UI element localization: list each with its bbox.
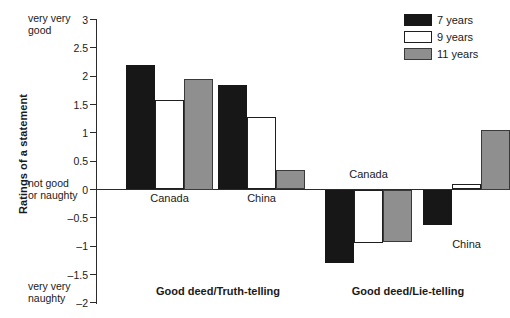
y-tick-label: 0.5: [42, 155, 88, 167]
y-tick-label: –0.5: [42, 212, 88, 224]
y-tick-label: 1: [42, 127, 88, 139]
y-tick: [90, 161, 96, 162]
y-tick-label-text: 0.5: [48, 155, 88, 167]
y-tick: [90, 246, 96, 247]
legend-item-11-years: 11 years: [404, 46, 478, 61]
bar-9-years-canada-0: [155, 100, 184, 190]
legend-swatch-icon-black: [404, 14, 432, 26]
bar-11-years-china-1: [276, 170, 305, 190]
y-tick: [90, 274, 96, 275]
y-tick-label-text: 1: [48, 127, 88, 139]
y-tick: [90, 19, 96, 20]
y-axis-annotation: not good or naughty: [28, 178, 78, 201]
y-tick-label: –1: [42, 240, 88, 252]
y-tick: [90, 104, 96, 105]
y-tick: [90, 302, 96, 303]
bar-7-years-canada-0: [126, 65, 155, 190]
y-tick: [90, 132, 96, 133]
legend: 7 years9 years11 years: [404, 12, 478, 63]
legend-swatch-icon-gray: [404, 48, 432, 60]
y-tick-label-text: 2.5: [48, 42, 88, 54]
bar-11-years-canada-0: [184, 79, 213, 190]
y-tick-label: 2.5: [42, 42, 88, 54]
y-tick: [90, 47, 96, 48]
y-tick-label-text: 1.5: [48, 99, 88, 111]
group-label-1: Good deed/Truth-telling: [128, 285, 308, 297]
bar-9-years-china-1: [247, 117, 276, 190]
y-tick: [90, 189, 96, 190]
legend-item-9-years: 9 years: [404, 29, 478, 44]
category-label-china-1: China: [218, 192, 305, 204]
group-label-2: Good deed/Lie-telling: [318, 285, 498, 297]
category-label-china-3: China: [423, 238, 510, 250]
y-tick-label: –1.5: [42, 269, 88, 281]
legend-label: 11 years: [437, 48, 478, 60]
y-tick-label-text: –0.5: [48, 212, 88, 224]
y-tick-label: 1.5: [42, 99, 88, 111]
y-tick-label-text: –1: [48, 240, 88, 252]
y-tick-label-text: –1.5: [48, 269, 88, 281]
category-label-canada-0: Canada: [126, 192, 213, 204]
bar-11-years-canada-2: [383, 190, 412, 243]
legend-item-7-years: 7 years: [404, 12, 478, 27]
category-label-canada-2: Canada: [325, 168, 412, 180]
legend-label: 7 years: [437, 14, 473, 26]
y-tick: [90, 217, 96, 218]
bar-7-years-canada-2: [325, 190, 354, 264]
bar-9-years-china-3: [452, 184, 481, 190]
y-tick-label: 2: [42, 70, 88, 82]
bar-9-years-canada-2: [354, 190, 383, 244]
y-axis-annotation: very very naughty: [28, 281, 71, 304]
legend-swatch-icon-white: [404, 31, 432, 43]
y-axis-title: Ratings of a statement: [17, 69, 29, 239]
bar-11-years-china-3: [481, 130, 510, 190]
y-axis-line: [96, 19, 97, 304]
bar-7-years-china-3: [423, 190, 452, 225]
bar-7-years-china-1: [218, 85, 247, 190]
y-axis-annotation: very very good: [28, 13, 71, 36]
y-tick-label-text: 2: [48, 70, 88, 82]
y-tick: [90, 76, 96, 77]
legend-label: 9 years: [437, 31, 473, 43]
